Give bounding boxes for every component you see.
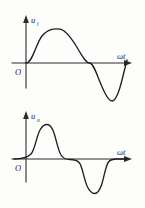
output-y-axis-label-subscript: o — [37, 117, 40, 123]
panel-output-waveform: u o ωt O — [0, 104, 145, 208]
input-y-axis-arrowhead — [23, 15, 29, 23]
output-y-axis-arrowhead — [23, 111, 29, 119]
output-x-axis-label: ωt — [117, 147, 126, 157]
waveform-figure: u i ωt O u o ωt O — [0, 0, 145, 208]
output-y-axis-label: u — [31, 111, 35, 121]
input-y-axis-label-subscript: i — [37, 21, 39, 27]
input-origin-label: O — [15, 67, 21, 77]
panel-input-waveform: u i ωt O — [0, 0, 145, 104]
input-waveform-curve — [26, 29, 127, 101]
output-origin-label: O — [15, 163, 21, 173]
input-x-axis-label: ωt — [117, 51, 126, 61]
output-waveform-svg: u o ωt O — [0, 104, 145, 208]
input-waveform-svg: u i ωt O — [0, 0, 145, 104]
input-y-axis-label: u — [31, 15, 35, 25]
